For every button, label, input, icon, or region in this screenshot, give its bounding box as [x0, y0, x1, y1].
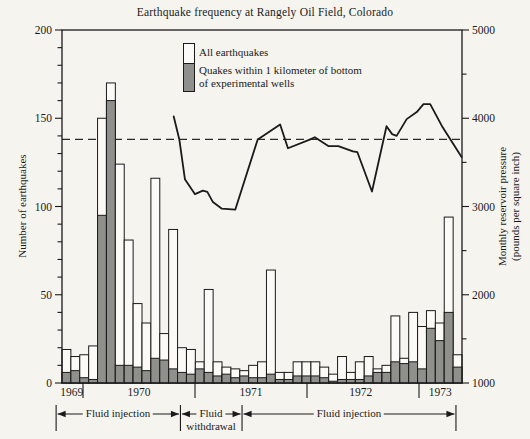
bar-all-earthquakes: [266, 270, 275, 383]
bar-all-earthquakes: [204, 289, 213, 383]
bar-within-1km: [133, 367, 142, 383]
bar-within-1km: [266, 374, 275, 383]
right-axis-label: Monthly reservoir pressure (pounds per s…: [496, 117, 521, 297]
bar-all-earthquakes: [115, 164, 124, 383]
bar-within-1km: [231, 378, 240, 383]
bar-within-1km: [98, 215, 107, 383]
earthquake-frequency-figure: 0501001502001000200030004000500019691970…: [0, 0, 530, 439]
right-axis-tick-label: 2000: [472, 289, 495, 301]
left-axis-label: Number of earthquakes: [16, 118, 28, 294]
x-axis-year-label: 1972: [349, 386, 372, 398]
annotation-fluid-injection-2: Fluid injection: [314, 407, 384, 419]
bar-within-1km: [302, 376, 311, 383]
bar-all-earthquakes: [89, 346, 98, 383]
left-axis-tick-label: 200: [35, 24, 53, 36]
legend-label-all-earthquakes: All earthquakes: [199, 46, 268, 59]
bar-within-1km: [249, 378, 258, 383]
bar-within-1km: [444, 312, 453, 383]
bar-all-earthquakes: [151, 178, 160, 383]
legend-swatch-quakes-within-1km: [183, 63, 195, 92]
bar-within-1km: [160, 360, 169, 383]
x-axis-year-label: 1970: [128, 386, 151, 398]
bar-within-1km: [71, 371, 80, 383]
bar-within-1km: [186, 374, 195, 383]
right-axis-label-line2: (pounds per square inch): [508, 117, 521, 297]
legend-swatch-all-earthquakes: [183, 43, 195, 64]
left-axis-tick-label: 0: [46, 377, 52, 389]
bar-within-1km: [151, 358, 160, 383]
x-axis-year-label: 1973: [429, 386, 452, 398]
annotation-fluid-withdrawal-line1: Fluid: [196, 407, 225, 419]
bar-within-1km: [426, 328, 435, 383]
right-axis-tick-label: 3000: [472, 201, 495, 213]
legend-label-line2: of experimental wells: [199, 77, 362, 90]
reservoir-pressure-line: [174, 104, 462, 209]
bar-within-1km: [169, 369, 178, 383]
right-axis-tick-label: 1000: [472, 377, 495, 389]
bar-within-1km: [373, 372, 382, 383]
bar-within-1km: [258, 378, 267, 383]
bar-within-1km: [382, 372, 391, 383]
bar-within-1km: [311, 376, 320, 383]
arrowhead: [182, 411, 190, 417]
bar-all-earthquakes: [169, 229, 178, 383]
arrowhead: [446, 411, 454, 417]
bar-within-1km: [213, 376, 222, 383]
left-axis-tick-label: 50: [41, 289, 53, 301]
right-axis-tick-label: 4000: [472, 112, 495, 124]
right-axis-tick-label: 5000: [472, 24, 495, 36]
bar-within-1km: [115, 365, 124, 383]
arrowhead: [244, 411, 252, 417]
bar-within-1km: [106, 101, 115, 383]
bar-within-1km: [204, 372, 213, 383]
arrowhead: [58, 411, 66, 417]
arrowhead: [171, 411, 179, 417]
bar-within-1km: [391, 362, 400, 383]
bar-within-1km: [435, 341, 444, 383]
annotation-fluid-injection-1: Fluid injection: [83, 407, 153, 419]
legend-label-line1: Quakes within 1 kilometer of bottom: [199, 64, 362, 77]
left-axis-tick-label: 150: [35, 112, 53, 124]
bar-within-1km: [320, 378, 329, 383]
bar-within-1km: [418, 369, 427, 383]
bar-within-1km: [293, 376, 302, 383]
legend-label-quakes-within-1km: Quakes within 1 kilometer of bottom of e…: [199, 64, 362, 89]
bar-within-1km: [240, 376, 249, 383]
x-axis-year-label: 1971: [240, 386, 263, 398]
bar-within-1km: [409, 362, 418, 383]
left-axis-tick-label: 100: [35, 201, 53, 213]
bar-within-1km: [142, 371, 151, 383]
bar-within-1km: [364, 376, 373, 383]
right-axis-label-line1: Monthly reservoir pressure: [496, 117, 509, 297]
bar-within-1km: [222, 374, 231, 383]
x-axis-year-label: 1969: [60, 386, 83, 398]
bar-within-1km: [178, 372, 187, 383]
bar-within-1km: [62, 372, 71, 383]
bar-within-1km: [195, 369, 204, 383]
bar-within-1km: [400, 364, 409, 383]
annotation-fluid-withdrawal-line2: withdrawal: [186, 420, 235, 432]
bar-within-1km: [80, 378, 89, 383]
bar-all-earthquakes: [124, 240, 133, 383]
bar-within-1km: [453, 367, 462, 383]
bar-within-1km: [124, 365, 133, 383]
chart-title: Earthquake frequency at Rangely Oil Fiel…: [0, 6, 530, 18]
arrowhead: [233, 411, 241, 417]
